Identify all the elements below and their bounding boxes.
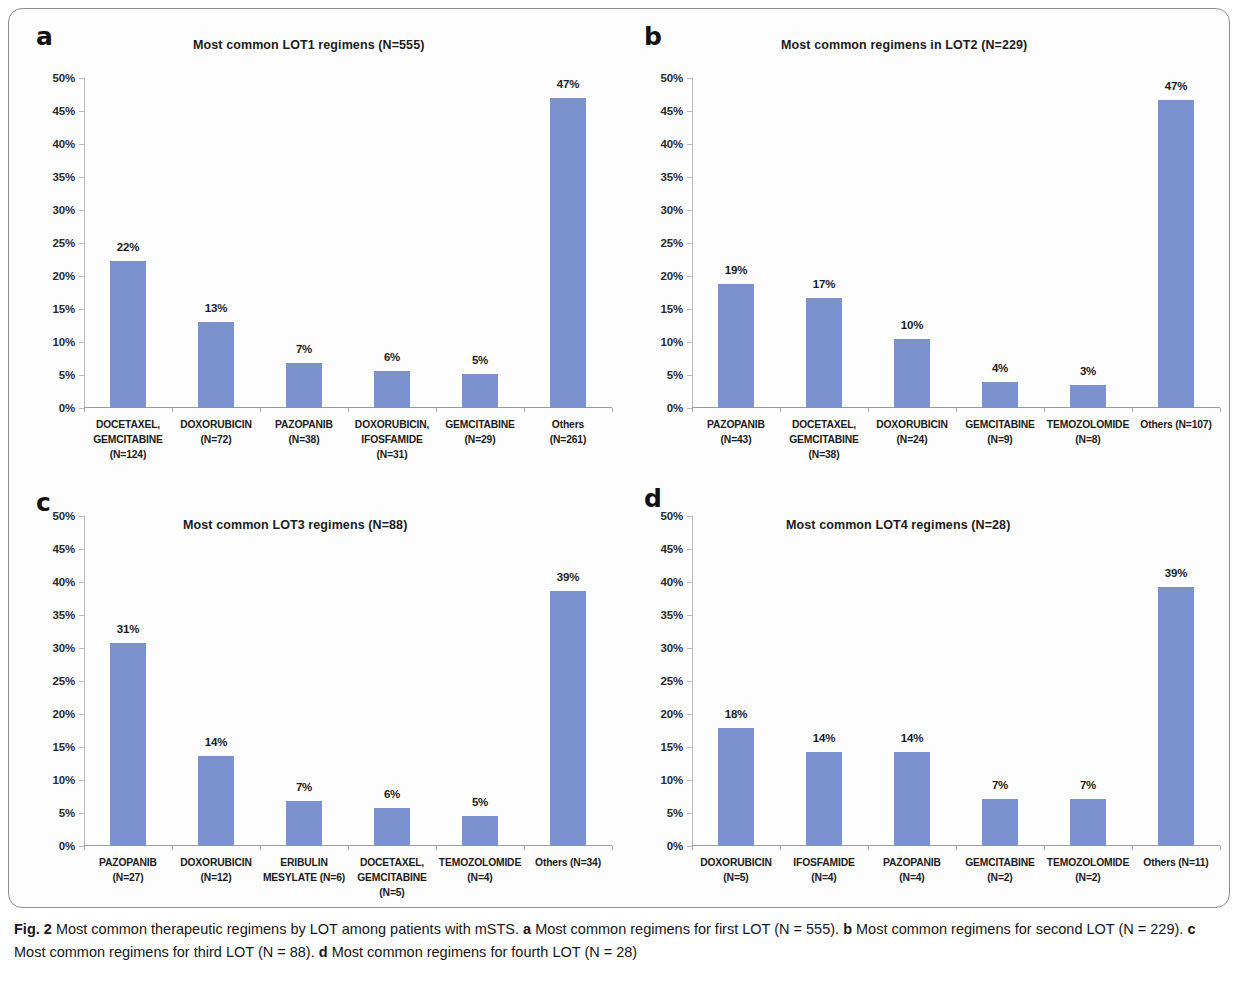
- bar-value-label: 14%: [901, 732, 923, 744]
- panel-c-plot: 0%5%10%15%20%25%30%35%40%45%50%31%PAZOPA…: [84, 516, 612, 846]
- x-axis-category-label: PAZOPANIB(N=4): [861, 855, 963, 885]
- x-axis-tick-mark: [436, 846, 437, 850]
- caption-text-b: Most common regimens for second LOT (N =…: [856, 921, 1183, 937]
- x-axis-tick-mark: [260, 408, 261, 412]
- bar: [718, 284, 754, 408]
- x-axis-tick-mark: [84, 846, 85, 850]
- bar-value-label: 3%: [1080, 365, 1096, 377]
- y-axis-tick-mark: [687, 243, 692, 244]
- y-axis-line: [692, 516, 693, 846]
- x-axis-category-label: TEMOZOLOMIDE(N=2): [1037, 855, 1139, 885]
- y-axis-line: [84, 516, 85, 846]
- x-axis-category-label: ERIBULINMESYLATE (N=6): [253, 855, 355, 885]
- y-axis-tick-mark: [79, 309, 84, 310]
- bar-value-label: 7%: [296, 781, 312, 793]
- caption-label: Fig. 2: [14, 921, 52, 937]
- x-axis-tick-mark: [780, 846, 781, 850]
- x-axis-category-label: Others (N=107): [1125, 417, 1227, 432]
- bar: [198, 756, 234, 846]
- bar-value-label: 7%: [296, 343, 312, 355]
- x-axis-tick-mark: [1132, 408, 1133, 412]
- bar-value-label: 39%: [557, 571, 579, 583]
- bar: [550, 98, 586, 408]
- x-axis-tick-mark: [692, 408, 693, 412]
- x-axis-tick-mark: [1044, 846, 1045, 850]
- y-axis-tick-mark: [687, 813, 692, 814]
- x-axis-tick-mark: [348, 846, 349, 850]
- y-axis-tick-mark: [687, 210, 692, 211]
- bar-value-label: 7%: [992, 779, 1008, 791]
- y-axis-tick-mark: [79, 243, 84, 244]
- x-axis-tick-mark: [612, 846, 613, 850]
- y-axis-tick-mark: [687, 747, 692, 748]
- x-axis-tick-mark: [524, 846, 525, 850]
- bar: [1158, 587, 1194, 846]
- y-axis-tick-mark: [79, 342, 84, 343]
- y-axis-tick-mark: [79, 177, 84, 178]
- bar: [550, 591, 586, 846]
- x-axis-category-label: DOCETAXEL,GEMCITABINE(N=5): [341, 855, 443, 900]
- panel-b-letter: b: [644, 22, 661, 51]
- y-axis-tick-mark: [79, 276, 84, 277]
- caption-text-d: Most common regimens for fourth LOT (N =…: [332, 944, 638, 960]
- y-axis-tick-mark: [79, 681, 84, 682]
- bar-value-label: 6%: [384, 788, 400, 800]
- bar-value-label: 19%: [725, 264, 747, 276]
- figure-caption: Fig. 2 Most common therapeutic regimens …: [14, 918, 1229, 964]
- bar-value-label: 17%: [813, 278, 835, 290]
- y-axis-tick-mark: [79, 714, 84, 715]
- x-axis-category-label: Others(N=261): [517, 417, 619, 447]
- y-axis-tick-mark: [687, 681, 692, 682]
- bar-value-label: 39%: [1165, 567, 1187, 579]
- bar-value-label: 31%: [117, 623, 139, 635]
- x-axis-category-label: IFOSFAMIDE(N=4): [773, 855, 875, 885]
- x-axis-category-label: TEMOZOLOMIDE(N=4): [429, 855, 531, 885]
- bar: [982, 382, 1018, 408]
- bar: [982, 799, 1018, 846]
- panel-d-plot: 0%5%10%15%20%25%30%35%40%45%50%18%DOXORU…: [692, 516, 1220, 846]
- y-axis-line: [692, 78, 693, 408]
- bar: [374, 808, 410, 846]
- y-axis-tick-mark: [687, 714, 692, 715]
- panel-a: a Most common LOT1 regimens (N=555) 0%5%…: [28, 22, 628, 472]
- x-axis-category-label: TEMOZOLOMIDE(N=8): [1037, 417, 1139, 447]
- y-axis-tick-mark: [79, 144, 84, 145]
- y-axis-tick-mark: [687, 144, 692, 145]
- x-axis-category-label: DOXORUBICIN(N=12): [165, 855, 267, 885]
- panel-a-title: Most common LOT1 regimens (N=555): [193, 38, 424, 52]
- bar: [110, 643, 146, 846]
- bar: [1070, 799, 1106, 846]
- x-axis-tick-mark: [868, 408, 869, 412]
- y-axis-tick-mark: [687, 177, 692, 178]
- x-axis-tick-mark: [172, 846, 173, 850]
- x-axis-category-label: DOXORUBICIN(N=72): [165, 417, 267, 447]
- bar: [286, 363, 322, 408]
- bar: [374, 371, 410, 408]
- y-axis-tick-mark: [687, 78, 692, 79]
- x-axis-tick-mark: [84, 408, 85, 412]
- bar-value-label: 47%: [557, 78, 579, 90]
- panel-b-title: Most common regimens in LOT2 (N=229): [781, 38, 1027, 52]
- x-axis-category-label: Others (N=34): [517, 855, 619, 870]
- y-axis-tick-mark: [687, 342, 692, 343]
- caption-text-c: Most common regimens for third LOT (N = …: [14, 944, 315, 960]
- bar-value-label: 47%: [1165, 80, 1187, 92]
- x-axis-category-label: DOCETAXEL,GEMCITABINE(N=38): [773, 417, 875, 462]
- x-axis-tick-mark: [348, 408, 349, 412]
- bar-value-label: 14%: [813, 732, 835, 744]
- y-axis-tick-mark: [79, 549, 84, 550]
- y-axis-tick-mark: [79, 747, 84, 748]
- x-axis-tick-mark: [1044, 408, 1045, 412]
- bar-value-label: 7%: [1080, 779, 1096, 791]
- y-axis-tick-mark: [79, 780, 84, 781]
- x-axis-tick-mark: [524, 408, 525, 412]
- x-axis-category-label: GEMCITABINE(N=29): [429, 417, 531, 447]
- bar-value-label: 14%: [205, 736, 227, 748]
- bar: [718, 728, 754, 846]
- y-axis-tick-mark: [687, 111, 692, 112]
- panel-d-letter: d: [644, 484, 661, 513]
- y-axis-tick-mark: [79, 615, 84, 616]
- bar-value-label: 10%: [901, 319, 923, 331]
- panel-c-letter: c: [36, 488, 50, 517]
- x-axis-category-label: PAZOPANIB(N=38): [253, 417, 355, 447]
